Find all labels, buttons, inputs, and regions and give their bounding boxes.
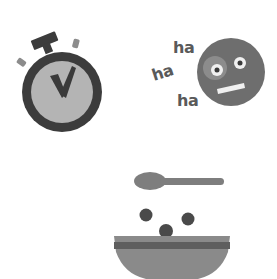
stopwatch-illustration xyxy=(14,28,114,138)
laughing-face-icon xyxy=(140,30,270,125)
laughing-face-illustration: ha ha ha xyxy=(140,30,270,125)
cereal-bowl-illustration xyxy=(110,170,235,279)
cereal-bowl-icon xyxy=(110,170,235,279)
stopwatch-icon xyxy=(14,28,114,138)
